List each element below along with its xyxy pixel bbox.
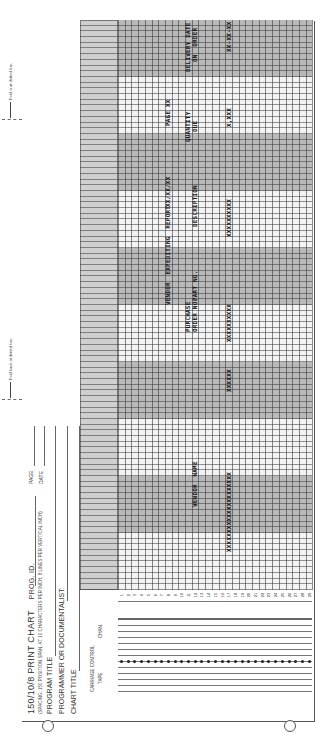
grid-vline [80,230,312,231]
grid-vline [80,105,312,106]
grid-hline [198,20,199,590]
grid-vline [80,93,312,94]
grid-vline [80,65,312,66]
carriage-tape-sprocket-icon [140,660,143,663]
grid-hline [292,20,293,590]
page-field[interactable] [34,426,35,466]
grid-hline [252,20,253,590]
heading-description: DESCRIPTION [191,185,198,227]
grid-vline [80,509,312,510]
grid-vline [80,167,312,168]
programmer-field[interactable] [67,426,68,601]
grid-hline [118,20,119,590]
programmer-label: PROGRAMMER OR DOCUMENTALIST: [58,587,65,714]
grid-hline [259,20,260,590]
grid-vline [80,338,312,339]
grid-vline [80,452,312,453]
grid-vline [80,407,312,408]
report-title-text: VENDOR EXPEDITING REPORT [164,206,171,305]
carriage-tape-sprocket-icon [227,660,230,663]
grid-hline [245,20,246,590]
carriage-tape-sprocket-icon [147,660,150,663]
heading-purchase: PURCHASE [184,302,191,333]
grid-vline [80,532,312,533]
grid-vline [80,179,312,180]
heading-quantity: QUANTITY [184,112,191,143]
carriage-control-label: CARRIAGE CONTROL [90,645,95,692]
carriage-tape-sprocket-icon [308,660,311,663]
carriage-tape-sprocket-icon [180,660,183,663]
grid-vline [80,87,312,88]
grid-vline [80,441,312,442]
detail-part-mask: XXXXXXXXXX [225,304,232,342]
carriage-tape-sprocket-icon [274,660,277,663]
carriage-tape-sprocket-icon [294,660,297,663]
prog-id-field[interactable] [35,496,36,586]
grid-vline [80,236,312,237]
grid-hline [306,20,307,590]
grid-vline [80,25,312,26]
punch-hole-right [284,720,296,732]
carriage-tape-sprocket-icon [288,660,291,663]
report-page-mask: PAGE XX [164,99,171,126]
grid-hline [239,20,240,590]
program-title-field[interactable] [55,426,56,656]
grid-vline [80,333,312,334]
grid-vline [80,549,312,550]
date-label: DATE [38,471,44,484]
chart-title-label: CHART TITLE [70,669,77,714]
grid-vline [80,344,312,345]
carriage-tape-sprocket-icon [214,660,217,663]
grid-vline [80,395,312,396]
grid-vline [80,521,312,522]
grid-vline [80,447,312,448]
fold-in-note: Fold in at dotted line. [8,63,13,100]
detail-quantity-mask: X,XXX [225,108,232,127]
heading-delivery-date: DELIVERY DATE [184,22,191,72]
grid-vline [80,264,312,265]
carriage-tape-sprocket-icon [254,660,257,663]
heading-due: DUE [191,121,198,132]
grid-hline [299,20,300,590]
grid-vline [80,526,312,527]
carriage-tape-sprocket-icon [174,660,177,663]
grid-vline [80,458,312,459]
grid-hline [205,20,206,590]
grid-vline [80,372,312,373]
fold-back-dotted-line [2,399,22,400]
grid-vline [80,424,312,425]
heading-on-order: ON ORDER [191,28,198,62]
prog-id-label: PROG. ID. [28,563,35,599]
page-label: PAGE [28,470,34,484]
grid-hline [219,20,220,590]
grid-hline [125,20,126,590]
grid-vline [80,355,312,356]
carriage-tape-sprocket-icon [247,660,250,663]
carriage-control-area: CARRIAGE CONTROL TAPE CHAN. [118,590,312,698]
grid-vline [80,139,312,140]
grid-vline [80,110,312,111]
grid-vline [80,144,312,145]
grid-vline [80,156,312,157]
grid-vline [80,367,312,368]
grid-vline [80,555,312,556]
date-field[interactable] [44,426,45,466]
grid-vline [80,429,312,430]
heading-order-no: ORDER NO. [191,298,198,332]
grid-vline [80,70,312,71]
spacing-note: (SPACING: 150 POSITION SPAN, AT 10 CHARA… [38,511,43,714]
carriage-tape-sprocket-icon [160,660,163,663]
grid-hline [232,20,233,590]
print-position-number-strip [80,20,118,590]
grid-hline [138,20,139,590]
carriage-tape-sprocket-icon [207,660,210,663]
carriage-tape-sprocket-icon [154,660,157,663]
grid-vline [80,515,312,516]
grid-vline [80,162,312,163]
grid-hline [178,20,179,590]
grid-vline [80,572,312,573]
carriage-tape-sprocket-icon [200,660,203,663]
grid-hline [265,20,266,590]
grid-vline [80,350,312,351]
carriage-tape-sprocket-icon [241,660,244,663]
